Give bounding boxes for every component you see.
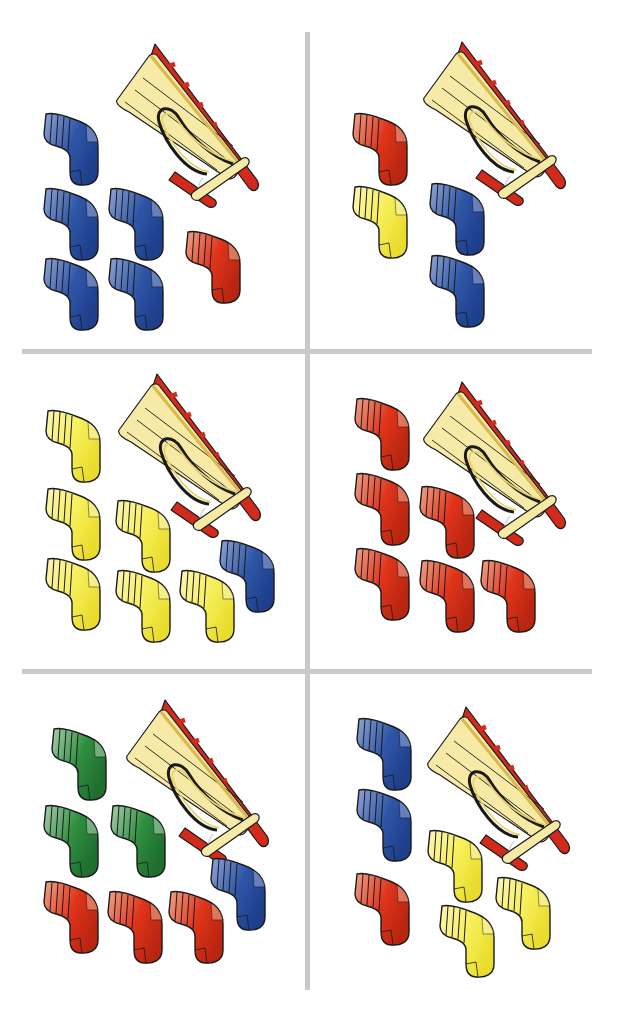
red-sock-icon (349, 110, 411, 188)
green-sock-icon (40, 802, 102, 880)
panel-4 (309, 345, 609, 660)
red-sock-icon (182, 228, 244, 306)
red-sock-icon (416, 557, 478, 635)
red-sock-icon (40, 878, 102, 956)
yellow-sock-icon (436, 902, 498, 980)
green-sock-icon (48, 725, 110, 803)
red-sock-icon (351, 470, 413, 548)
panel-5 (0, 670, 300, 985)
yellow-sock-icon (42, 485, 104, 563)
yellow-sock-icon (42, 407, 104, 485)
panel-2 (309, 0, 609, 315)
yellow-sock-icon (42, 555, 104, 633)
yellow-sock-icon (112, 567, 174, 645)
yellow-sock-icon (176, 567, 238, 645)
blue-sock-icon (40, 110, 102, 188)
blue-sock-icon (426, 252, 488, 330)
blue-sock-icon (40, 255, 102, 333)
red-sock-icon (104, 888, 166, 966)
blue-sock-icon (353, 786, 415, 864)
red-sock-icon (165, 888, 227, 966)
blue-sock-icon (40, 185, 102, 263)
panel-6 (309, 670, 609, 985)
blue-sock-icon (105, 185, 167, 263)
panel-3 (0, 345, 300, 660)
red-sock-icon (477, 557, 539, 635)
red-sock-icon (416, 483, 478, 561)
blue-sock-icon (105, 255, 167, 333)
blue-sock-icon (426, 180, 488, 258)
yellow-sock-icon (424, 827, 486, 905)
yellow-sock-icon (492, 874, 554, 952)
blue-sock-icon (353, 715, 415, 793)
red-sock-icon (351, 870, 413, 948)
yellow-sock-icon (349, 183, 411, 261)
panel-1 (0, 0, 300, 315)
yellow-sock-icon (112, 497, 174, 575)
red-sock-icon (351, 395, 413, 473)
green-sock-icon (107, 802, 169, 880)
red-sock-icon (351, 545, 413, 623)
